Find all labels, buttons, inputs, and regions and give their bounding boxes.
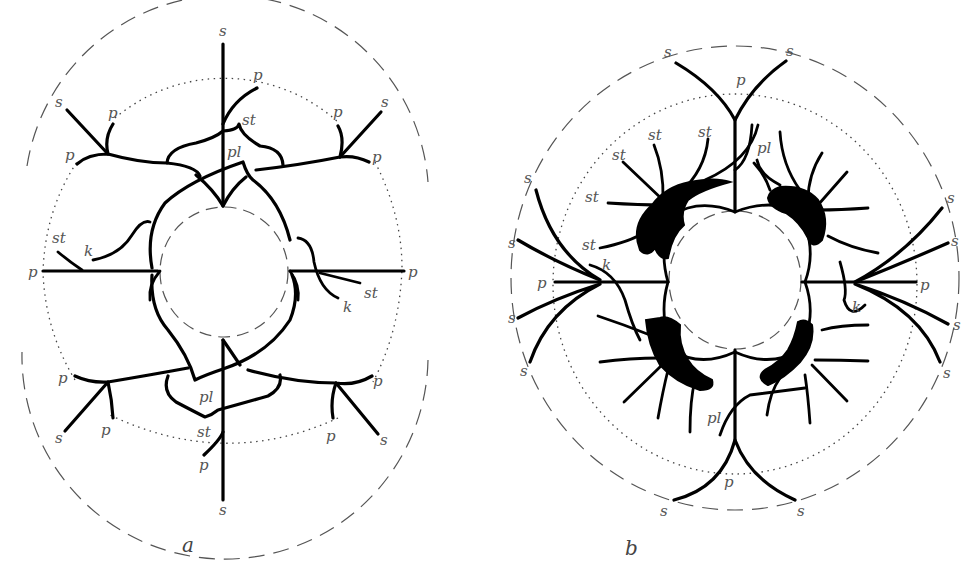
label-p: p — [537, 274, 547, 292]
label-p: p — [372, 148, 382, 166]
panel-b-bottom-branch — [674, 440, 795, 500]
label-st: st — [364, 284, 379, 302]
label-s: s — [55, 429, 63, 447]
label-st: st — [197, 423, 212, 441]
label-s: s — [381, 93, 389, 111]
panel-b-central-ring — [664, 205, 810, 360]
label-s: s — [524, 169, 532, 187]
label-p: p — [920, 276, 930, 294]
label-p: p — [101, 421, 111, 439]
label-st: st — [585, 188, 600, 206]
panel-b-left-fan — [518, 190, 600, 362]
label-pl: pl — [707, 409, 722, 427]
label-s: s — [943, 364, 951, 382]
label-k: k — [602, 256, 611, 274]
label-s: s — [508, 234, 516, 252]
label-p: p — [253, 66, 263, 84]
panel-b-lower-pl-curve — [720, 388, 805, 435]
panel-b-inner-dashed-circle — [669, 211, 801, 349]
panel-a-left-st-curve — [58, 252, 82, 270]
label-s: s — [520, 362, 528, 380]
figure-canvas: s p st pl s p p s p p st k p p st k p pl… — [0, 0, 979, 576]
panel-a-right-st-curve — [320, 273, 360, 283]
panel-b-top-branch — [676, 61, 786, 120]
label-s: s — [508, 309, 516, 327]
panel-a-outer-dashed-circle — [22, 0, 428, 559]
panel-b-caption: b — [625, 536, 638, 560]
label-p: p — [736, 71, 746, 89]
label-st: st — [52, 229, 67, 247]
label-p: p — [65, 146, 75, 164]
label-s: s — [786, 42, 794, 60]
label-pl: pl — [199, 388, 214, 406]
panel-a-upper-pl-bracket — [167, 124, 283, 165]
label-k: k — [852, 298, 861, 316]
label-s: s — [797, 502, 805, 520]
panel-a-left-k-curve — [93, 222, 150, 260]
label-s: s — [219, 22, 227, 40]
panel-b: s s p st st st pl st st s s k p s s s s … — [508, 42, 961, 560]
label-p: p — [326, 427, 336, 445]
label-k: k — [343, 298, 352, 316]
panel-b-right-fan — [855, 208, 948, 362]
label-p: p — [58, 369, 68, 387]
panel-a-inner-dashed-circle — [160, 207, 288, 337]
label-s: s — [951, 232, 959, 250]
label-p: p — [408, 263, 418, 281]
label-s: s — [380, 431, 388, 449]
label-st: st — [582, 236, 597, 254]
panel-a: s p st pl s p p s p p st k p p st k p pl… — [22, 0, 428, 559]
label-pl: pl — [757, 139, 772, 157]
panel-b-upper-right-cell — [768, 187, 825, 245]
label-st: st — [698, 123, 713, 141]
label-s: s — [947, 189, 955, 207]
label-s: s — [219, 501, 227, 519]
panel-a-upper-leaf — [150, 162, 290, 268]
label-s: s — [953, 316, 961, 334]
label-k: k — [84, 242, 93, 260]
panel-a-right-k-curve — [298, 238, 338, 298]
label-st: st — [612, 146, 627, 164]
label-s: s — [660, 502, 668, 520]
panel-a-caption: a — [182, 533, 194, 557]
panel-a-lower-right-diagonal — [336, 383, 378, 434]
label-p: p — [108, 104, 118, 122]
label-st: st — [242, 111, 257, 129]
label-st: st — [648, 126, 663, 144]
label-p: p — [28, 263, 38, 281]
label-p: p — [199, 456, 209, 474]
label-pl: pl — [227, 143, 242, 161]
label-p: p — [333, 103, 343, 121]
label-s: s — [55, 93, 63, 111]
label-p: p — [373, 372, 383, 390]
label-s: s — [664, 43, 672, 61]
label-p: p — [724, 473, 734, 491]
